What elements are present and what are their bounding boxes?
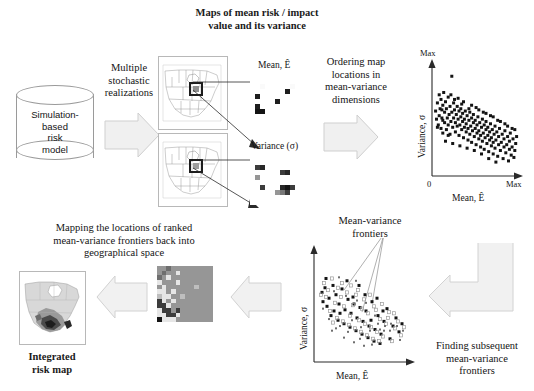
scatter-point [468, 133, 471, 136]
scatter-point [399, 334, 402, 337]
scatter-point [372, 305, 375, 308]
scatter-point [351, 319, 353, 321]
scatter-point [513, 149, 516, 152]
scatter-point [492, 141, 495, 144]
scatter-point [377, 314, 380, 317]
scatter-point [347, 298, 350, 301]
scatter-point [335, 327, 337, 329]
scatter-point [336, 286, 339, 289]
scatter-point [449, 120, 452, 123]
scatter-point [322, 308, 324, 310]
scatter-point [458, 123, 461, 126]
scatter-point [331, 330, 333, 332]
scatter-point [448, 113, 451, 116]
scatter-point [378, 317, 381, 320]
arrow-4-label: Mapping the locations of ranked mean-var… [24, 222, 224, 260]
scatter-point [440, 108, 443, 111]
scatter-point [465, 122, 468, 125]
scatter-point [399, 339, 401, 341]
scatter-point [451, 126, 454, 129]
scatter-point [358, 284, 361, 287]
scatter-point [365, 302, 367, 304]
scatter-point [398, 330, 401, 333]
scatter-point [370, 319, 373, 322]
scatter-point [506, 125, 509, 128]
scatter-point [363, 345, 365, 347]
scatter-point [492, 115, 495, 118]
grid-cell [208, 317, 213, 322]
scatter-point [500, 141, 503, 144]
mean-grid-title: Mean, Ê [258, 60, 290, 70]
scatter-point [382, 309, 385, 312]
scatter-point [515, 135, 518, 138]
scatter-point [338, 276, 340, 278]
scatter-point [339, 295, 342, 298]
scatter-point [486, 126, 489, 129]
scatter-point [453, 108, 456, 111]
scatter-point [340, 282, 343, 285]
scatter-point [444, 100, 447, 103]
scatter-point [341, 287, 344, 290]
scatter-point [493, 133, 496, 136]
scatter-point [514, 142, 517, 145]
scatter-point [489, 114, 492, 117]
scatter-point [513, 128, 516, 131]
integrated-risk-map-label: Integrated risk map [14, 351, 90, 377]
scatter-point [480, 152, 483, 155]
scatter-point [460, 128, 463, 131]
scatter-point [475, 143, 478, 146]
scatter-point [333, 290, 335, 292]
scatter-point [467, 127, 470, 130]
scatter-point [483, 123, 486, 126]
scatter-point [436, 126, 439, 129]
scatter-point [344, 308, 347, 311]
scatter-point [328, 309, 331, 312]
scatter-point [476, 123, 479, 126]
scatter-point [467, 119, 470, 122]
scatter-point [462, 136, 465, 139]
scatter-point [458, 134, 461, 137]
scatter-point [454, 130, 457, 133]
scatter-point [456, 125, 459, 128]
scatter-point [499, 120, 502, 123]
simulation-model-cylinder: Simulation- based risk model [16, 85, 94, 171]
scatter-point [512, 156, 515, 159]
variance-grid-title: Variance (σ) [251, 141, 298, 151]
scatter-point [497, 135, 500, 138]
scatter-point [389, 330, 391, 332]
scatter-top-ylabel: Variance, σ [417, 115, 427, 158]
scatter-point [470, 117, 473, 120]
scatter-point [374, 308, 377, 311]
grid-cell [295, 200, 300, 205]
scatter-point [438, 114, 441, 117]
scatter-point [402, 326, 405, 329]
scatter-point [464, 110, 467, 113]
scatter-point [483, 148, 486, 151]
scatter-top-xtick-min: 0 [427, 179, 431, 189]
scatter-point [369, 330, 371, 332]
scatter-top-xlabel: Mean, Ê [452, 193, 484, 203]
scatter-point [463, 126, 466, 129]
scatter-point [356, 300, 358, 302]
scatter-point [445, 107, 448, 110]
scatter-point [438, 93, 441, 96]
scatter-point [474, 119, 477, 122]
scatter-point [330, 314, 333, 317]
scatter-point [496, 119, 499, 122]
scatter-point [450, 75, 453, 78]
scatter-point [502, 157, 505, 160]
scatter-point [333, 309, 336, 312]
scatter-point [494, 161, 497, 164]
scatter-point [468, 111, 471, 114]
scatter-point [330, 277, 333, 280]
scatter-point [463, 118, 466, 121]
scatter-point [496, 155, 499, 158]
scatter-point [377, 323, 379, 325]
scatter-point [449, 105, 452, 108]
cylinder-top-ellipse [16, 85, 94, 105]
scatter-point [485, 120, 488, 123]
scatter-point [440, 127, 443, 130]
scatter-point [322, 282, 325, 285]
scatter-point [386, 316, 389, 319]
scatter-point [447, 123, 450, 126]
